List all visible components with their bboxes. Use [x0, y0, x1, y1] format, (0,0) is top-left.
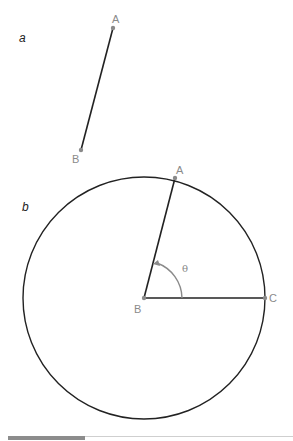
segment-ab: [81, 28, 113, 150]
point-a-label: A: [112, 13, 120, 25]
point-a-marker: [111, 26, 115, 30]
point-a-label-b: A: [176, 164, 184, 176]
footer-rule: [85, 436, 293, 437]
diagram-canvas: a A B b θ A B C: [0, 0, 293, 441]
point-a-marker-b: [173, 176, 177, 180]
point-b-label: B: [72, 153, 79, 165]
point-b-marker: [79, 148, 83, 152]
footer-bar-accent: [8, 436, 85, 440]
panel-a-label: a: [19, 31, 26, 45]
panel-b-label: b: [22, 200, 29, 214]
radius-ba: [144, 178, 175, 298]
point-c-marker: [263, 296, 267, 300]
point-b-label-b: B: [134, 303, 141, 315]
angle-theta-label: θ: [182, 263, 188, 274]
point-c-label: C: [269, 292, 277, 304]
point-b-marker-b: [142, 296, 146, 300]
angle-arc: [157, 263, 182, 298]
